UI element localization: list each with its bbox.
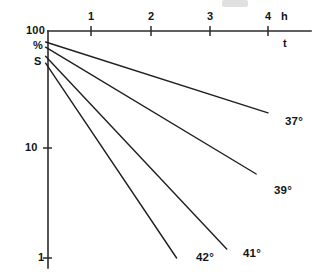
y-axis-unit-label: % xyxy=(33,40,43,51)
y-axis-tick-label-1: 1 xyxy=(38,252,44,263)
x-axis-variable-label: t xyxy=(283,38,287,49)
series-label-39: 39° xyxy=(274,185,292,197)
x-axis-tick-label-4: 4 xyxy=(265,11,271,22)
plot-canvas xyxy=(0,0,315,278)
y-axis-quantity-label: S xyxy=(34,56,42,67)
y-axis-top-tick-label: 100 xyxy=(26,25,45,36)
x-axis-tick-label-3: 3 xyxy=(207,11,213,22)
series-line-42 xyxy=(46,63,177,258)
series-label-41: 41° xyxy=(243,248,261,260)
semilog-chart: 100 % S 10 1 1 2 3 4 h t 37° 39° 41° 42° xyxy=(0,0,315,278)
x-axis-tick-label-2: 2 xyxy=(148,11,154,22)
x-axis-tick-label-1: 1 xyxy=(88,11,94,22)
series-label-42: 42° xyxy=(196,252,214,264)
x-axis-unit-label: h xyxy=(281,11,288,22)
y-axis-tick-label-10: 10 xyxy=(25,142,38,153)
series-label-37: 37° xyxy=(285,116,303,128)
series-line-41 xyxy=(46,56,227,249)
series-line-37 xyxy=(46,42,268,113)
